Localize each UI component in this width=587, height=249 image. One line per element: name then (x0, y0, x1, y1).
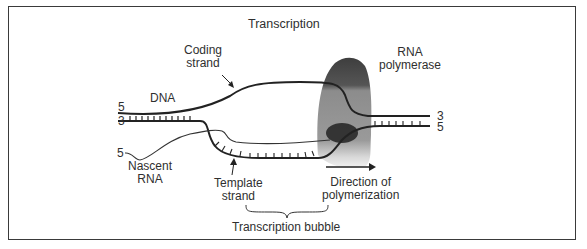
label-dna: DNA (150, 92, 175, 105)
label-rna-polymerase: RNApolymerase (379, 46, 441, 72)
transcription-bubble-brace (246, 205, 328, 218)
end-label-left-bottom: 3 (118, 115, 125, 128)
end-label-rna-start: 5 (117, 147, 124, 160)
label-nascent-rna: NascentRNA (128, 160, 172, 186)
label-template-strand: Templatestrand (214, 177, 263, 203)
end-label-right-bottom: 5 (437, 121, 444, 134)
end-label-left-top: 5 (118, 101, 125, 114)
label-coding-strand: Codingstrand (184, 44, 222, 70)
transcription-diagram (0, 0, 587, 249)
label-direction-of-polymerization: Direction ofpolymerization (322, 176, 399, 202)
coding-strand-arrow (222, 75, 234, 88)
template-strand-line (118, 121, 430, 158)
rna-polymerase-shape (317, 58, 371, 168)
template-strand-arrow (230, 158, 237, 175)
nascent-rna-line (125, 130, 330, 160)
label-transcription-bubble: Transcription bubble (232, 221, 340, 234)
diagram-title: Transcription (248, 18, 320, 31)
